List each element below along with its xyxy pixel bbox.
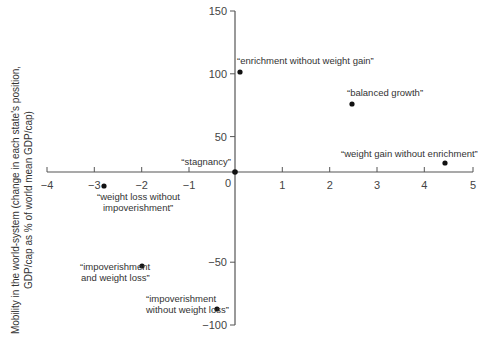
svg-text:−100: −100: [202, 319, 227, 331]
svg-text:−2: −2: [135, 179, 148, 191]
svg-text:4: 4: [421, 179, 427, 191]
svg-text:50: 50: [215, 131, 227, 143]
svg-text:“impoverishment: “impoverishment: [146, 293, 217, 304]
point-impoverishment-without-weight-loss: “impoverishment without weight loss”: [145, 293, 229, 315]
svg-text:without weight loss”: without weight loss”: [145, 304, 229, 315]
svg-text:100: 100: [209, 68, 227, 80]
svg-text:“enrichment without weight gai: “enrichment without weight gain”: [237, 55, 374, 66]
svg-text:impoverishment”: impoverishment”: [103, 202, 173, 213]
svg-text:“weight loss without: “weight loss without: [97, 191, 180, 202]
scatter-chart: −4 −3 −2 −1 1 2 3 4 5 150 100 50 0 −50 −…: [0, 0, 487, 348]
svg-text:150: 150: [209, 5, 227, 17]
point-impoverishment-and-weight-loss: “impoverishment and weight loss”: [80, 261, 151, 283]
svg-text:−50: −50: [208, 256, 227, 268]
svg-text:1: 1: [279, 179, 285, 191]
svg-text:5: 5: [470, 179, 476, 191]
svg-text:“balanced growth”: “balanced growth”: [347, 87, 423, 98]
svg-text:3: 3: [374, 179, 380, 191]
point-balanced-growth: “balanced growth”: [347, 87, 423, 107]
svg-text:−3: −3: [88, 179, 101, 191]
svg-text:−4: −4: [41, 179, 54, 191]
svg-text:2: 2: [327, 179, 333, 191]
svg-text:and weight loss”: and weight loss”: [81, 272, 150, 283]
point-weight-gain-without-enrichment: “weight gain without enrichment”: [341, 148, 478, 166]
y-tick-labels: 150 100 50 0 −50 −100: [202, 5, 231, 331]
svg-text:“weight gain without enrichmen: “weight gain without enrichment”: [341, 148, 478, 159]
x-ticks: [47, 167, 473, 172]
svg-text:0: 0: [225, 177, 231, 189]
y-ticks: [230, 11, 235, 325]
svg-text:GDP/cap as % of world mean GDP: GDP/cap as % of world mean GDP/cap): [23, 111, 34, 289]
svg-text:“impoverishment: “impoverishment: [80, 261, 151, 272]
svg-text:Mobility in the world-system (: Mobility in the world-system (change in …: [10, 66, 21, 334]
svg-text:−1: −1: [183, 179, 196, 191]
point-enrichment-without-weight-gain: “enrichment without weight gain”: [237, 55, 374, 75]
svg-text:“stagnancy”: “stagnancy”: [181, 156, 231, 167]
y-axis-label: Mobility in the world-system (change in …: [10, 66, 34, 334]
